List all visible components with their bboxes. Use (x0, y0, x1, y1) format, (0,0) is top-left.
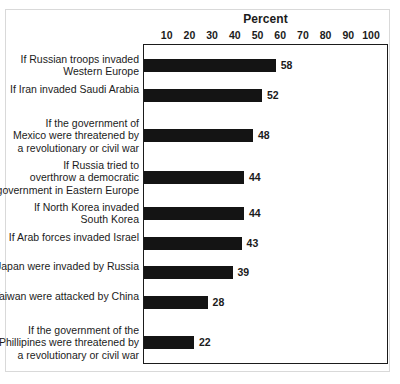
bar (144, 207, 244, 220)
bar (144, 237, 242, 250)
bar-value-label: 43 (247, 237, 259, 250)
category-label: If Japan were invaded by Russia (0, 260, 139, 272)
bar-value-label: 28 (213, 296, 225, 309)
category-label: If the government of the Phillipines wer… (0, 324, 139, 361)
category-label: If Arab forces invaded Israel (0, 231, 139, 243)
bar (144, 266, 233, 279)
category-label: If Iran invaded Saudi Arabia (0, 83, 139, 95)
category-label: If Russia tried to overthrow a democrati… (0, 159, 139, 196)
category-label: If Russian troops invaded Western Europe (0, 53, 139, 78)
bar-value-label: 44 (249, 171, 261, 184)
x-tick-100: 100 (356, 29, 386, 41)
bar-rows: If Russian troops invaded Western Europe… (0, 44, 400, 364)
bar (144, 89, 262, 102)
bar-value-label: 39 (238, 266, 250, 279)
bar (144, 296, 208, 309)
bar (144, 171, 244, 184)
bar (144, 129, 253, 142)
category-label: If Taiwan were attacked by China (0, 290, 139, 302)
chart-title: Percent (143, 12, 388, 26)
category-label: If the government of Mexico were threate… (0, 117, 139, 154)
bar (144, 59, 276, 72)
bar-value-label: 44 (249, 207, 261, 220)
category-label: If North Korea invaded South Korea (0, 201, 139, 226)
bar (144, 336, 194, 349)
bar-chart-figure: Percent 102030405060708090100 If Russian… (0, 0, 400, 384)
bar-value-label: 48 (258, 129, 270, 142)
x-axis-tick-labels: 102030405060708090100 (143, 29, 388, 43)
bar-value-label: 22 (199, 336, 211, 349)
bar-value-label: 58 (281, 59, 293, 72)
bar-value-label: 52 (267, 89, 279, 102)
